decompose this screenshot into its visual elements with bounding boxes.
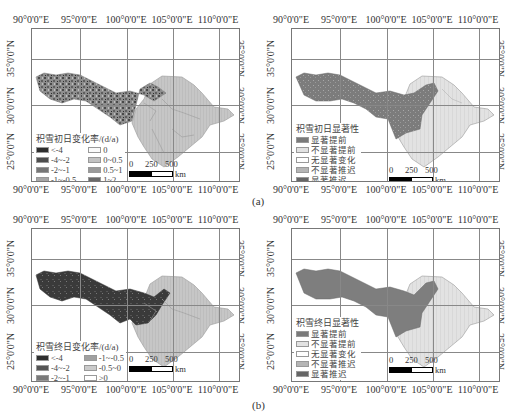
x-tick-top: 95°0'0"E [321, 14, 357, 25]
legend-swatch [296, 147, 309, 153]
gridline-35n [292, 59, 499, 60]
gridline-35n [32, 259, 239, 260]
x-tick-top: 90°0'0"E [13, 14, 49, 25]
x-tick-bottom: 90°0'0"E [273, 184, 309, 195]
y-tick-left: 30°0'0"N [265, 87, 276, 124]
x-tick-bottom: 95°0'0"E [61, 184, 97, 195]
x-tick-top: 90°0'0"E [273, 14, 309, 25]
legend-item: 不显著提前 [296, 339, 359, 349]
legend-item: 1~2 [88, 175, 122, 182]
legend-end-rate: 积雪终日变化率/(d/a) <-4 -4~-2 -2~-1 -1~-0.5 -0… [34, 341, 126, 382]
legend-swatch [84, 365, 97, 371]
legend-swatch [296, 331, 309, 337]
panel-b-snow-end-significance: 90°0'0"E 95°0'0"E 100°0'0"E 105°0'0"E 11… [260, 200, 522, 405]
x-tick-top: 95°0'0"E [61, 14, 97, 25]
y-tick-left: 35°0'0"N [5, 240, 16, 277]
legend-item: -4~-2 [36, 363, 70, 373]
legend-title: 积雪初日显著性 [296, 124, 359, 134]
legend-item: 不显著提前 [296, 145, 359, 155]
legend-title: 积雪终日变化率/(d/a) [36, 342, 124, 352]
legend-item: -2~-1 [36, 165, 76, 175]
map-frame: 积雪初日变化率/(d/a) <-4 -4~-2 -2~-1 -1~-0.5 -0… [31, 28, 240, 182]
y-tick-left: 30°0'0"N [265, 287, 276, 324]
legend-item: -2~-1 [36, 373, 70, 382]
y-tick-left: 30°0'0"N [5, 287, 16, 324]
legend-item: -0.5~0 [84, 363, 124, 373]
x-tick-top: 110°0'0"E [458, 214, 499, 225]
legend-item: 不显著推迟 [296, 165, 359, 175]
x-tick-top: 110°0'0"E [458, 14, 499, 25]
gridline-35n [32, 59, 239, 60]
y-tick-left: 25°0'0"N [265, 133, 276, 170]
gridline-30n [292, 105, 499, 106]
x-tick-bottom: 90°0'0"E [273, 384, 309, 395]
legend-swatch [88, 157, 101, 163]
x-tick-top: 105°0'0"E [412, 14, 453, 25]
x-tick-bottom: 110°0'0"E [458, 384, 499, 395]
x-tick-top: 100°0'0"E [366, 214, 407, 225]
gridline-30n [292, 305, 499, 306]
y-tick-left: 25°0'0"N [265, 333, 276, 370]
panel-a-snow-onset-rate: 90°0'0"E 95°0'0"E 100°0'0"E 105°0'0"E 11… [0, 0, 262, 205]
gridline-30n [32, 105, 239, 106]
x-tick-top: 105°0'0"E [152, 214, 193, 225]
x-tick-bottom: 95°0'0"E [61, 384, 97, 395]
x-tick-bottom: 110°0'0"E [198, 384, 239, 395]
map-frame: 积雪终日变化率/(d/a) <-4 -4~-2 -2~-1 -1~-0.5 -0… [31, 228, 240, 382]
x-tick-bottom: 100°0'0"E [106, 184, 147, 195]
x-tick-top: 110°0'0"E [198, 14, 239, 25]
x-tick-top: 95°0'0"E [61, 214, 97, 225]
legend-swatch [296, 167, 309, 173]
legend-swatch [36, 147, 49, 153]
panel-a-snow-onset-significance: 90°0'0"E 95°0'0"E 100°0'0"E 105°0'0"E 11… [260, 0, 522, 205]
x-tick-bottom: 105°0'0"E [152, 384, 193, 395]
scale-bar: 0250500 km [389, 165, 499, 182]
legend-title: 积雪终日显著性 [296, 318, 359, 328]
legend-swatch [296, 157, 309, 163]
caption-b: (b) [252, 399, 265, 411]
scale-bar: 0250500 km [129, 159, 239, 179]
x-tick-top: 100°0'0"E [106, 14, 147, 25]
x-tick-bottom: 105°0'0"E [152, 184, 193, 195]
x-tick-bottom: 105°0'0"E [412, 184, 453, 195]
legend-item: 无显著变化 [296, 155, 359, 165]
legend-swatch [36, 157, 49, 163]
y-tick-left: 25°0'0"N [5, 333, 16, 370]
legend-item: >0 [84, 373, 124, 382]
legend-swatch [296, 351, 309, 357]
legend-swatch [36, 355, 49, 361]
legend-title: 积雪初日变化率/(d/a) [36, 134, 123, 144]
x-tick-top: 90°0'0"E [13, 214, 49, 225]
panel-b-snow-end-rate: 90°0'0"E 95°0'0"E 100°0'0"E 105°0'0"E 11… [0, 200, 262, 405]
legend-item: <-4 [36, 353, 70, 363]
scale-bar: 0250500 km [389, 355, 499, 375]
legend-onset-significance: 积雪初日显著性 显著提前 不显著提前 无显著变化 不显著推迟 显著推迟 [294, 123, 361, 182]
legend-swatch [88, 147, 101, 153]
legend-swatch [36, 177, 49, 182]
legend-item: -4~-2 [36, 155, 76, 165]
x-tick-top: 100°0'0"E [366, 14, 407, 25]
legend-item: 0 [88, 145, 122, 155]
x-tick-top: 95°0'0"E [321, 214, 357, 225]
x-tick-bottom: 110°0'0"E [458, 184, 499, 195]
legend-swatch [84, 375, 97, 381]
scale-bar: 0250500 km [129, 354, 239, 374]
x-tick-bottom: 100°0'0"E [366, 184, 407, 195]
legend-item: 显著推迟 [296, 369, 359, 379]
legend-item: 不显著推迟 [296, 359, 359, 369]
legend-swatch [296, 361, 309, 367]
legend-item: 显著提前 [296, 135, 359, 145]
y-tick-left: 35°0'0"N [265, 40, 276, 77]
gridline-30n [32, 305, 239, 306]
legend-item: 显著推迟 [296, 175, 359, 182]
x-tick-top: 90°0'0"E [273, 214, 309, 225]
y-tick-left: 35°0'0"N [265, 240, 276, 277]
legend-item: 无显著变化 [296, 349, 359, 359]
legend-swatch [36, 375, 49, 381]
legend-item: -1~-0.5 [36, 175, 76, 182]
legend-swatch [36, 167, 49, 173]
legend-swatch [296, 371, 309, 377]
map-frame: 积雪初日显著性 显著提前 不显著提前 无显著变化 不显著推迟 显著推迟 0250… [291, 28, 500, 182]
legend-swatch [296, 341, 309, 347]
legend-swatch [84, 355, 97, 361]
